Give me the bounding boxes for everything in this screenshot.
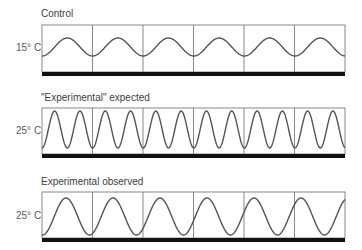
- oscillation-diagram: [0, 0, 362, 250]
- time-bar: [42, 72, 345, 76]
- time-bar: [42, 154, 345, 158]
- time-bar: [42, 238, 345, 242]
